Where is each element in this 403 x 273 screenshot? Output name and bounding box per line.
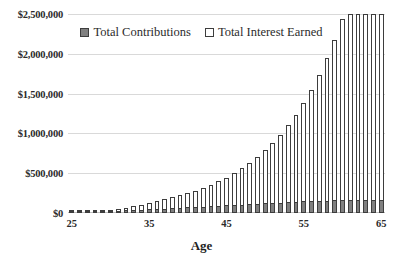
bar-stack <box>317 75 322 213</box>
bar-segment-interest <box>371 14 376 200</box>
bar-segment-contributions <box>131 210 136 213</box>
bar-segment-interest <box>379 14 384 200</box>
bar-segment-contributions <box>363 200 368 213</box>
bar-stack <box>348 14 353 213</box>
bar-segment-interest <box>363 14 368 200</box>
retirement-savings-chart: $0$500,000$1,000,000$1,500,000$2,000,000… <box>0 0 403 273</box>
bar-segment-interest <box>286 125 291 202</box>
bar-stack <box>85 212 90 213</box>
bar-segment-contributions <box>247 204 252 213</box>
bar-segment-contributions <box>209 206 214 213</box>
bar-segment-interest <box>247 163 252 204</box>
bar-stack <box>294 115 299 213</box>
bar-segment-contributions <box>162 209 167 213</box>
bar-segment-contributions <box>286 202 291 213</box>
bar-segment-contributions <box>108 211 113 213</box>
bar-segment-contributions <box>224 205 229 213</box>
bar-segment-contributions <box>155 209 160 213</box>
bar-stack <box>116 209 121 213</box>
bar-segment-contributions <box>301 201 306 213</box>
bar-stack <box>209 185 214 213</box>
bar-segment-interest <box>193 191 198 207</box>
bar-stack <box>278 135 283 213</box>
bar-segment-contributions <box>309 201 314 213</box>
bar-segment-contributions <box>147 209 152 213</box>
bar-stack <box>193 191 198 213</box>
bar-segment-contributions <box>116 211 121 213</box>
bar-segment-interest <box>301 103 306 202</box>
bar-segment-contributions <box>325 201 330 213</box>
bar-segment-contributions <box>278 203 283 213</box>
bar-stack <box>379 14 384 213</box>
bar-stack <box>155 201 160 213</box>
bar-segment-contributions <box>77 211 82 213</box>
bar-stack <box>178 195 183 213</box>
bar-segment-interest <box>185 193 190 207</box>
bar-segment-interest <box>178 195 183 207</box>
bar-series-group <box>68 14 385 213</box>
bar-segment-contributions <box>356 200 361 213</box>
bar-segment-contributions <box>193 207 198 213</box>
bar-segment-contributions <box>100 211 105 213</box>
bar-segment-interest <box>348 14 353 200</box>
bar-segment-interest <box>224 178 229 206</box>
bar-segment-interest <box>263 150 268 203</box>
bar-segment-interest <box>170 197 175 208</box>
bar-segment-interest <box>317 75 322 201</box>
bar-stack <box>363 14 368 213</box>
bar-segment-interest <box>162 199 167 208</box>
bar-stack <box>170 197 175 213</box>
bar-segment-interest <box>255 157 260 204</box>
x-axis-tick-label: 55 <box>299 218 310 229</box>
bar-segment-contributions <box>139 210 144 213</box>
x-axis-tick-label: 45 <box>221 218 232 229</box>
bar-stack <box>216 181 221 213</box>
bar-segment-contributions <box>178 208 183 213</box>
bar-segment-contributions <box>232 205 237 213</box>
bar-stack <box>131 206 136 213</box>
bar-stack <box>124 208 129 213</box>
bar-segment-interest <box>356 14 361 200</box>
bar-stack <box>371 14 376 213</box>
bar-segment-contributions <box>340 200 345 213</box>
bar-segment-interest <box>332 40 337 201</box>
y-axis-tick-label: $0 <box>0 208 63 219</box>
bar-segment-contributions <box>317 201 322 213</box>
bar-stack <box>301 103 306 213</box>
bar-stack <box>255 157 260 213</box>
bar-stack <box>240 168 245 213</box>
bar-stack <box>185 193 190 213</box>
x-axis-tick-label: 65 <box>376 218 387 229</box>
bar-stack <box>93 211 98 213</box>
bar-stack <box>108 210 113 213</box>
bar-segment-contributions <box>270 203 275 213</box>
bar-segment-interest <box>201 188 206 207</box>
bar-stack <box>270 143 275 213</box>
bar-stack <box>224 178 229 214</box>
bar-segment-contributions <box>371 200 376 213</box>
bar-segment-interest <box>232 173 237 205</box>
bar-stack <box>325 58 330 213</box>
bar-stack <box>77 212 82 213</box>
bar-stack <box>263 150 268 213</box>
y-axis-tick-label: $2,000,000 <box>0 48 63 59</box>
x-axis-tick-label: 25 <box>67 218 78 229</box>
bar-stack <box>69 212 74 213</box>
bar-segment-contributions <box>332 200 337 213</box>
bar-segment-contributions <box>185 207 190 213</box>
plot-area <box>68 14 385 213</box>
bar-segment-interest <box>340 19 345 200</box>
bar-segment-interest <box>155 201 160 209</box>
bar-segment-contributions <box>69 211 74 213</box>
bar-segment-contributions <box>263 203 268 213</box>
bar-segment-interest <box>294 115 299 202</box>
bar-stack <box>139 205 144 213</box>
bar-segment-contributions <box>379 200 384 213</box>
bar-stack <box>340 19 345 213</box>
bar-stack <box>309 90 314 213</box>
bar-segment-contributions <box>294 202 299 213</box>
bar-stack <box>356 14 361 213</box>
bar-segment-contributions <box>170 208 175 213</box>
bar-stack <box>147 203 152 213</box>
bar-segment-contributions <box>93 211 98 213</box>
